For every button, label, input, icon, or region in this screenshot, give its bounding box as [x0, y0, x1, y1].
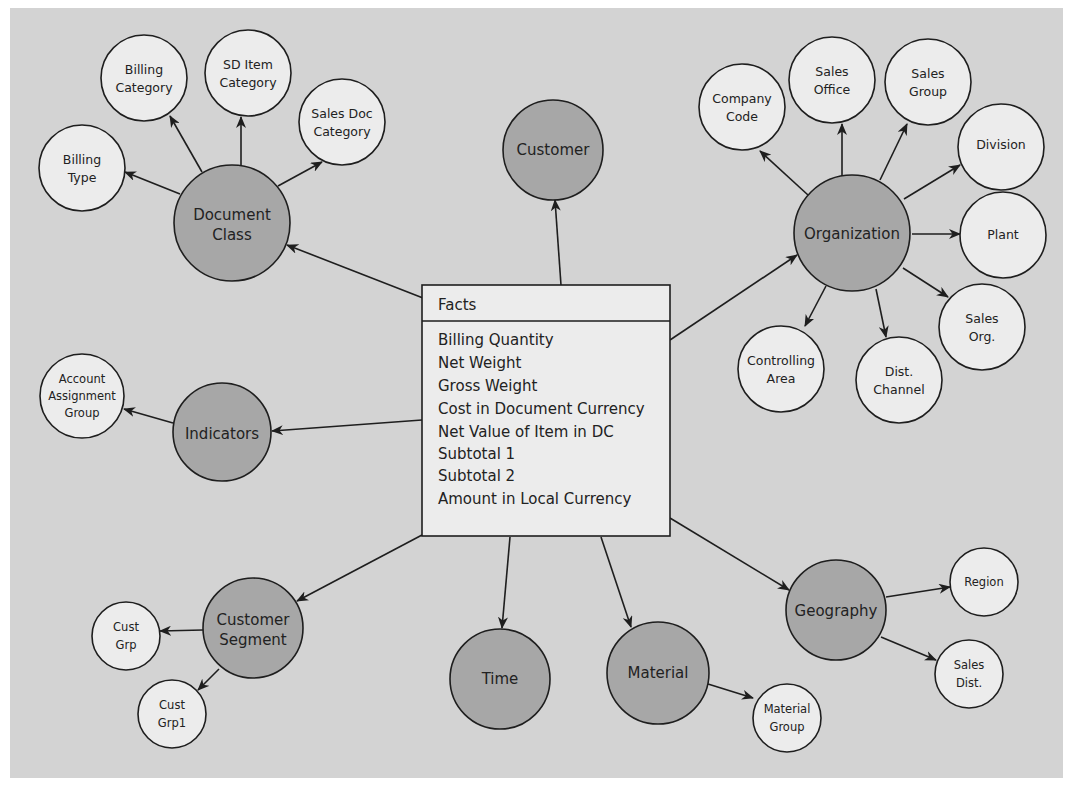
svg-text:Customer: Customer	[517, 141, 591, 159]
svg-text:Office: Office	[814, 82, 851, 97]
attribute-sales-org: Sales Org.	[939, 284, 1025, 370]
svg-text:Cust: Cust	[113, 620, 139, 634]
svg-text:Region: Region	[964, 575, 1003, 589]
facts-item: Billing Quantity	[438, 331, 554, 349]
dimension-customer-segment: Customer Segment	[203, 578, 303, 678]
svg-text:Company: Company	[712, 91, 772, 106]
svg-text:Code: Code	[726, 109, 758, 124]
svg-text:Time: Time	[481, 670, 519, 688]
facts-item: Amount in Local Currency	[438, 490, 632, 508]
attribute-division: Division	[958, 104, 1044, 190]
dimension-organization: Organization	[794, 175, 910, 291]
svg-text:Category: Category	[115, 80, 173, 95]
facts-item: Gross Weight	[438, 377, 537, 395]
attribute-sales-dist: Sales Dist.	[935, 640, 1003, 708]
svg-text:Dist.: Dist.	[885, 364, 914, 379]
svg-text:Sales: Sales	[954, 658, 985, 672]
svg-text:Plant: Plant	[987, 227, 1019, 242]
svg-text:Division: Division	[976, 137, 1026, 152]
svg-text:Category: Category	[313, 124, 371, 139]
dimension-geography: Geography	[786, 560, 886, 660]
facts-title: Facts	[438, 296, 477, 314]
attribute-company-code: Company Code	[699, 64, 785, 150]
svg-text:Group: Group	[769, 720, 804, 734]
svg-text:Dist.: Dist.	[956, 676, 982, 690]
svg-text:Segment: Segment	[219, 631, 287, 649]
facts-item: Subtotal 2	[438, 467, 515, 485]
facts-item: Subtotal 1	[438, 445, 515, 463]
svg-text:Grp1: Grp1	[158, 716, 186, 730]
star-schema-diagram: Facts Billing Quantity Net Weight Gross …	[0, 0, 1069, 789]
svg-text:Category: Category	[219, 75, 277, 90]
svg-text:SD Item: SD Item	[223, 57, 273, 72]
svg-text:Material: Material	[628, 664, 689, 682]
svg-text:Type: Type	[67, 170, 97, 185]
attribute-sales-doc-category: Sales Doc Category	[299, 79, 385, 165]
dimension-time: Time	[450, 629, 550, 729]
attribute-dist-channel: Dist. Channel	[856, 337, 942, 423]
svg-text:Sales: Sales	[965, 311, 998, 326]
svg-text:Indicators: Indicators	[185, 425, 259, 443]
svg-text:Cust: Cust	[159, 698, 185, 712]
svg-text:Group: Group	[64, 406, 99, 420]
attribute-plant: Plant	[960, 192, 1046, 278]
svg-text:Account: Account	[59, 372, 106, 386]
svg-text:Material: Material	[764, 702, 811, 716]
svg-text:Area: Area	[767, 371, 796, 386]
svg-text:Class: Class	[212, 226, 252, 244]
attribute-sales-group: Sales Group	[885, 39, 971, 125]
attribute-cust-grp: Cust Grp	[92, 602, 160, 670]
edge-customer-segment-cust-grp	[160, 630, 203, 631]
svg-text:Channel: Channel	[873, 382, 924, 397]
svg-text:Group: Group	[909, 84, 947, 99]
svg-text:Billing: Billing	[125, 62, 163, 77]
attribute-account-assignment-group: Account Assignment Group	[40, 354, 124, 438]
svg-text:Controlling: Controlling	[747, 353, 815, 368]
facts-item: Net Value of Item in DC	[438, 423, 614, 441]
attribute-billing-type: Billing Type	[39, 125, 125, 211]
attribute-controlling-area: Controlling Area	[738, 326, 824, 412]
svg-text:Billing: Billing	[63, 152, 101, 167]
dimension-material: Material	[607, 622, 709, 724]
svg-text:Sales: Sales	[815, 64, 848, 79]
attribute-cust-grp1: Cust Grp1	[138, 680, 206, 748]
svg-text:Sales Doc: Sales Doc	[311, 106, 373, 121]
attribute-billing-category: Billing Category	[101, 35, 187, 121]
svg-text:Organization: Organization	[804, 225, 900, 243]
svg-text:Org.: Org.	[969, 329, 996, 344]
svg-text:Grp: Grp	[116, 638, 137, 652]
svg-text:Assignment: Assignment	[48, 389, 116, 403]
svg-text:Geography: Geography	[795, 602, 878, 620]
dimension-indicators: Indicators	[173, 383, 271, 481]
dimension-document-class: Document Class	[174, 165, 290, 281]
facts-table: Facts Billing Quantity Net Weight Gross …	[422, 285, 670, 536]
svg-text:Customer: Customer	[217, 611, 291, 629]
attribute-sd-item-category: SD Item Category	[205, 30, 291, 116]
facts-item: Cost in Document Currency	[438, 400, 645, 418]
attribute-region: Region	[950, 548, 1018, 616]
svg-text:Document: Document	[193, 206, 271, 224]
facts-item: Net Weight	[438, 354, 521, 372]
svg-text:Sales: Sales	[911, 66, 944, 81]
attribute-sales-office: Sales Office	[789, 37, 875, 123]
dimension-customer: Customer	[503, 100, 603, 200]
attribute-material-group: Material Group	[753, 684, 821, 752]
